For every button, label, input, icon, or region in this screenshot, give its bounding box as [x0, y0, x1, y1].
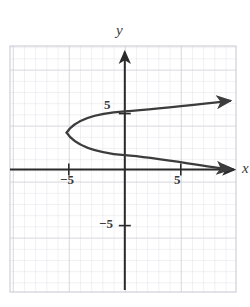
x-axis-label: x [242, 160, 249, 177]
y-tick-label-pos5: 5 [104, 97, 111, 113]
y-axis-label: y [116, 22, 123, 39]
x-tick-label-neg5: −5 [60, 172, 74, 188]
x-tick-label-pos5: 5 [174, 172, 181, 188]
figure-canvas: a b [0, 0, 250, 307]
y-tick-label-neg5: −5 [99, 216, 113, 232]
graph-svg [0, 0, 250, 307]
